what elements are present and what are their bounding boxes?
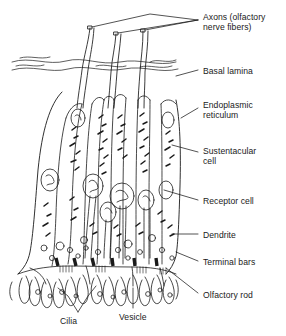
- basal-lamina-band: [12, 57, 178, 71]
- label-basal-lamina: Basal lamina: [203, 66, 253, 76]
- cell-nuclei: [41, 109, 174, 250]
- cell-columns: [52, 94, 176, 266]
- axon-fibers: [77, 26, 148, 108]
- label-endoplasmic-reticulum: Endoplasmic reticulum: [203, 100, 253, 120]
- figure-canvas: Axons (olfactory nerve fibers) Basal lam…: [0, 0, 286, 336]
- cilia-border: [10, 275, 179, 308]
- label-terminal-bars: Terminal bars: [203, 257, 255, 267]
- label-sustentacular-cell: Sustentacular cell: [203, 146, 256, 166]
- label-dendrite: Dendrite: [203, 230, 236, 240]
- label-olfactory-rod: Olfactory rod: [203, 290, 253, 300]
- microvilli: [60, 266, 166, 274]
- dendrites: [85, 196, 150, 258]
- label-cilia: Cilia: [60, 316, 77, 326]
- terminal-bars: [56, 258, 157, 266]
- olfactory-epithelium-illustration: [0, 0, 286, 336]
- epithelium-outline: [18, 92, 180, 274]
- label-vesicle: Vesicle: [119, 312, 147, 322]
- label-axons: Axons (olfactory nerve fibers): [203, 12, 265, 32]
- label-receptor-cell: Receptor cell: [203, 196, 254, 206]
